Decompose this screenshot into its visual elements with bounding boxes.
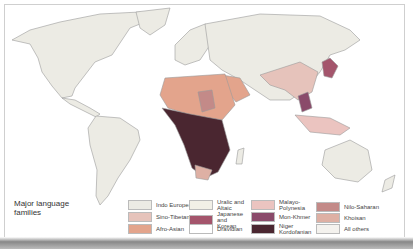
madagascar [236, 148, 244, 164]
legend-item-mon-khmer: Mon-Khmer [251, 212, 310, 222]
legend-item-khoisan: Khoisan [316, 213, 366, 223]
legend-item-indo-european: Indo European [128, 200, 195, 210]
legend-title: Major language families [14, 199, 84, 217]
swatch [251, 200, 275, 210]
swatch [189, 224, 213, 234]
swatch [316, 202, 340, 212]
southeast-asia-islands [295, 115, 350, 135]
mon-khmer-region [298, 92, 312, 112]
legend-item-niger-kordofanian: Niger Kordofanian [251, 223, 311, 235]
japan-korea [322, 58, 338, 78]
swatch [251, 224, 275, 234]
page-edge-shadow [0, 237, 413, 249]
new-zealand [382, 175, 395, 192]
legend-item-dravidian: Dravidian [189, 224, 242, 234]
swatch [128, 200, 152, 210]
greenland [136, 8, 170, 35]
swatch [316, 213, 340, 223]
south-america [88, 116, 140, 205]
legend-item-malayo-polynesia: Malayo-Polynesia [251, 199, 311, 211]
legend-item-afro-asian: Afro-Asian [128, 224, 184, 234]
legend-item-uralic-altaic: Uralic and Altaic [189, 199, 244, 211]
central-america [62, 98, 100, 117]
swatch [316, 224, 340, 234]
australia [322, 140, 372, 182]
swatch [251, 212, 275, 222]
swatch [189, 200, 213, 210]
north-america [12, 12, 150, 98]
swatch [128, 212, 152, 222]
legend-item-nilo-saharan: Nilo-Saharan [316, 202, 379, 212]
swatch [128, 224, 152, 234]
legend-item-sino-tibetan: Sino-Tibetan [128, 212, 190, 222]
legend-item-all-others: All others [316, 224, 369, 234]
